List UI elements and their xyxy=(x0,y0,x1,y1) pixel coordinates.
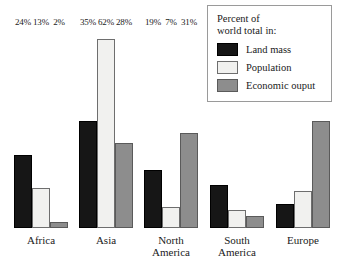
bar-wrap: 13% xyxy=(32,28,50,228)
category-label-line-1: Asia xyxy=(96,234,116,246)
legend-title-line-2: world total in: xyxy=(217,25,323,37)
legend-swatch-icon xyxy=(217,79,238,92)
bar[interactable]: 35% xyxy=(312,121,330,228)
bar[interactable]: 31% xyxy=(180,133,198,228)
bar[interactable]: 12% xyxy=(294,191,312,228)
bar-wrap: 35% xyxy=(79,28,97,228)
category-label: Africa xyxy=(27,234,55,246)
bar-wrap: 62% xyxy=(97,28,115,228)
bar[interactable]: 2% xyxy=(50,222,68,228)
bar-wrap: 2% xyxy=(50,28,68,228)
category-label: Europe xyxy=(287,234,319,246)
category-label: SouthAmerica xyxy=(218,234,256,258)
category-label-line-2: America xyxy=(152,246,190,258)
bar-chart: 24%13%2%Africa35%62%28%Asia19%7%31%North… xyxy=(0,0,338,277)
bar[interactable]: 35% xyxy=(79,121,97,228)
legend-title: Percent of world total in: xyxy=(217,13,323,37)
chart-legend: Percent of world total in: Land massPopu… xyxy=(207,5,332,102)
bar-wrap: 19% xyxy=(144,28,162,228)
legend-item[interactable]: Economic ouput xyxy=(217,78,323,93)
bar[interactable]: 7% xyxy=(162,207,180,228)
category-label-line-1: North xyxy=(152,234,190,246)
bar-value-label: 13% xyxy=(33,17,49,27)
bar[interactable]: 24% xyxy=(14,155,32,228)
legend-entries: Land massPopulationEconomic ouput xyxy=(217,42,323,93)
bar[interactable]: 19% xyxy=(144,170,162,228)
category-label-line-2: America xyxy=(218,246,256,258)
bar-value-label: 31% xyxy=(181,17,197,27)
bar-group: 24%13%2%Africa xyxy=(14,28,68,228)
bar-wrap: 24% xyxy=(14,28,32,228)
bar-value-label: 2% xyxy=(53,17,65,27)
category-label: NorthAmerica xyxy=(152,234,190,258)
legend-item-label: Population xyxy=(246,62,292,74)
legend-swatch-icon xyxy=(217,61,238,74)
bar-value-label: 35% xyxy=(80,17,96,27)
bar-wrap: 31% xyxy=(180,28,198,228)
legend-item[interactable]: Population xyxy=(217,60,323,75)
bar-group: 35%62%28%Asia xyxy=(79,28,133,228)
bar[interactable]: 62% xyxy=(97,39,115,228)
bar[interactable]: 6% xyxy=(228,210,246,228)
legend-title-line-1: Percent of xyxy=(217,13,323,25)
bar[interactable]: 28% xyxy=(115,143,133,228)
category-label-line-1: Europe xyxy=(287,234,319,246)
bar-value-label: 28% xyxy=(116,17,132,27)
bar[interactable]: 14% xyxy=(210,185,228,228)
bar-group: 19%7%31%NorthAmerica xyxy=(144,28,198,228)
bar-value-label: 62% xyxy=(98,17,114,27)
bar[interactable]: 8% xyxy=(276,204,294,228)
bar-wrap: 28% xyxy=(115,28,133,228)
legend-swatch-icon xyxy=(217,43,238,56)
bar-value-label: 19% xyxy=(145,17,161,27)
bar-wrap: 7% xyxy=(162,28,180,228)
legend-item-label: Economic ouput xyxy=(246,80,315,92)
category-label-line-1: South xyxy=(218,234,256,246)
category-label: Asia xyxy=(96,234,116,246)
legend-item[interactable]: Land mass xyxy=(217,42,323,57)
category-label-line-1: Africa xyxy=(27,234,55,246)
bar-value-label: 7% xyxy=(165,17,177,27)
bar[interactable]: 13% xyxy=(32,188,50,228)
bar-value-label: 24% xyxy=(15,17,31,27)
legend-item-label: Land mass xyxy=(246,44,291,56)
bar[interactable]: 4% xyxy=(246,216,264,228)
